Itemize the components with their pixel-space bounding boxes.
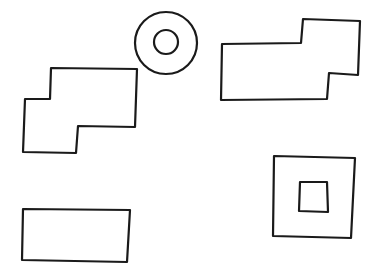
ring-shape	[135, 12, 197, 74]
ring-inner-circle	[154, 30, 178, 54]
right-stepped-polygon	[221, 19, 360, 100]
bottom-left-rectangle	[22, 209, 130, 262]
nested-squares	[273, 156, 355, 238]
left-stepped-polygon	[23, 68, 137, 153]
ring-outer-circle	[135, 12, 197, 74]
shapes-drawing	[0, 0, 373, 279]
nested-square-outer	[273, 156, 355, 238]
diagram-canvas	[0, 0, 373, 279]
nested-square-inner	[299, 182, 328, 212]
